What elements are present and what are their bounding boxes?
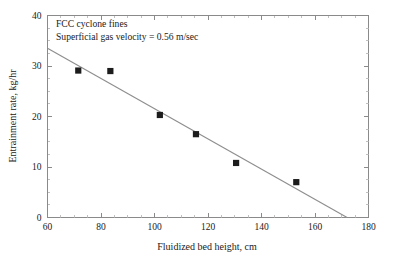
- x-tick-label: 140: [254, 222, 269, 232]
- x-tick-label: 100: [147, 222, 162, 232]
- data-point-marker: [157, 112, 163, 118]
- annotation-velocity-label: Superficial gas velocity = 0.56 m/sec: [56, 31, 198, 42]
- x-tick-label: 120: [201, 222, 216, 232]
- y-tick-label: 40: [32, 11, 42, 21]
- x-tick-label: 80: [96, 222, 106, 232]
- x-axis-title: Fluidized bed height, cm: [157, 241, 257, 252]
- chart-canvas: 6080100120140160180 010203040 Fluidized …: [0, 0, 395, 260]
- data-point-marker: [293, 179, 299, 185]
- y-axis-title: Entrainment rate, kg/hr: [7, 69, 18, 163]
- data-point-marker: [107, 68, 113, 74]
- annotation-sample-label: FCC cyclone fines: [56, 18, 128, 29]
- y-tick-label: 0: [37, 213, 42, 223]
- x-tick-label: 60: [43, 222, 53, 232]
- y-tick-label: 30: [32, 61, 42, 71]
- y-tick-label: 10: [32, 162, 42, 172]
- x-tick-label: 180: [361, 222, 376, 232]
- data-point-marker: [75, 67, 81, 73]
- chart-figure: 6080100120140160180 010203040 Fluidized …: [0, 0, 395, 260]
- y-tick-label: 20: [32, 112, 42, 122]
- x-tick-label: 160: [308, 222, 323, 232]
- data-point-marker: [193, 131, 199, 137]
- data-point-marker: [233, 160, 239, 166]
